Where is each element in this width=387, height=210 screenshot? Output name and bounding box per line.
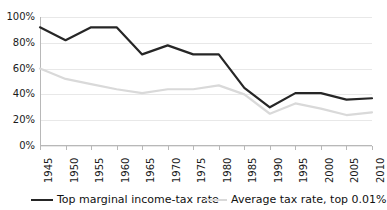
y-axis-tick-label: 20%: [0, 115, 35, 125]
x-axis-tickmark: [66, 146, 67, 150]
legend-label-1: Average tax rate, top 0.01%: [231, 194, 387, 205]
series-line-0: [40, 27, 372, 107]
legend-item-top-marginal-income-tax-rate: Top marginal income-tax rate: [31, 189, 219, 210]
x-axis-tick-label: 1950: [70, 158, 80, 183]
x-axis-tickmark: [321, 146, 322, 150]
chart-legend: Top marginal income-tax rate Average tax…: [0, 189, 376, 210]
x-axis-tickmark: [193, 146, 194, 150]
x-axis-tick-label: 2000: [325, 158, 335, 183]
y-axis-tick-label: 100%: [0, 12, 35, 22]
y-axis-tick-label: 0%: [0, 141, 35, 151]
x-axis-tickmark: [219, 146, 220, 150]
x-axis-tickmark: [346, 146, 347, 150]
x-axis-tick-label: 1970: [172, 158, 182, 183]
x-axis-tickmark: [295, 146, 296, 150]
y-axis-tick-label: 60%: [0, 64, 35, 74]
x-axis-tick-label: 1955: [95, 158, 105, 183]
x-axis-tick-label: 1965: [146, 158, 156, 183]
x-axis-tickmark: [142, 146, 143, 150]
series-lines: [40, 17, 372, 146]
x-axis-tick-label: 2010: [376, 158, 386, 183]
x-axis-tickmark: [270, 146, 271, 150]
y-axis-tick-label: 80%: [0, 38, 35, 48]
x-axis-tickmark: [40, 146, 41, 150]
legend-line-swatch-1: [205, 199, 227, 201]
series-line-1: [40, 69, 372, 115]
x-axis-tick-label: 1960: [121, 158, 131, 183]
x-axis-tick-label: 1990: [274, 158, 284, 183]
x-axis-tick-label: 1975: [197, 158, 207, 183]
x-axis-tickmark: [117, 146, 118, 150]
x-axis-tickmark: [91, 146, 92, 150]
legend-item-average-tax-rate-top-001: Average tax rate, top 0.01%: [205, 189, 387, 210]
x-axis-tick-label: 1980: [223, 158, 233, 183]
x-axis-tickmark: [372, 146, 373, 150]
gridline: [40, 146, 372, 147]
x-axis-tick-label: 2005: [350, 158, 360, 183]
x-axis-tickmark: [168, 146, 169, 150]
y-axis-tick-label: 40%: [0, 89, 35, 99]
x-axis-tick-label: 1995: [299, 158, 309, 183]
x-axis-tickmark: [244, 146, 245, 150]
x-axis-tick-label: 1945: [44, 158, 54, 183]
x-axis-tick-label: 1985: [248, 158, 258, 183]
legend-label-0: Top marginal income-tax rate: [57, 194, 219, 205]
legend-line-swatch-0: [31, 199, 53, 201]
plot-area: [40, 17, 372, 146]
